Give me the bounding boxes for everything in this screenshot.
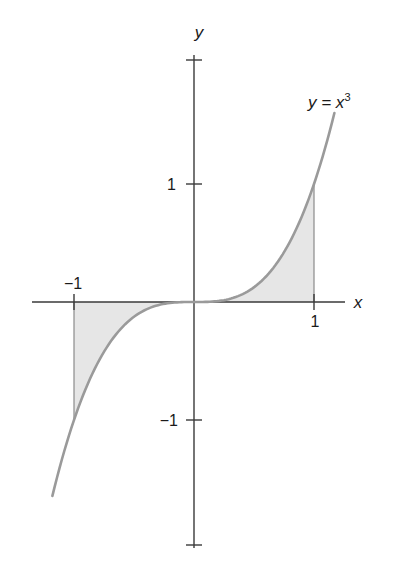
curve-label-base: y = x xyxy=(307,93,345,112)
curve-label: y = x3 xyxy=(307,91,351,112)
y-tick-label-1: 1 xyxy=(167,176,176,193)
x-axis-label: x xyxy=(353,293,363,312)
x-tick-label-neg1: −1 xyxy=(64,275,82,292)
curve-label-exponent: 3 xyxy=(344,91,350,103)
y-axis-label: y xyxy=(194,23,205,42)
x-tick-label-1: 1 xyxy=(311,313,320,330)
y-tick-label-neg1: −1 xyxy=(160,412,178,429)
cubic-function-plot: y x −1 1 1 −1 y = x3 xyxy=(0,0,395,581)
